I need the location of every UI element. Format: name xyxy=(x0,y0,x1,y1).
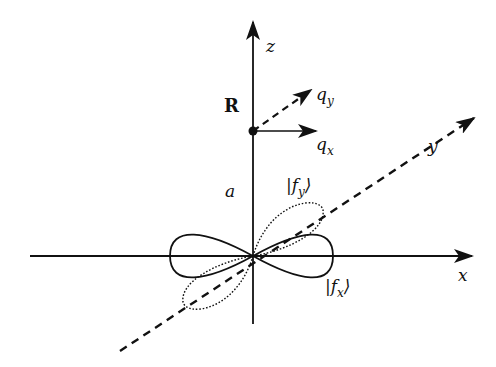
fy-label: |fy⟩ xyxy=(286,175,311,199)
fx-label: |fx⟩ xyxy=(325,276,350,300)
R-label: R xyxy=(224,95,240,116)
a-label: a xyxy=(225,181,235,201)
z-label: z xyxy=(265,36,276,56)
y-axis xyxy=(120,118,474,351)
orbital-diagram: z y x R a qy qx |fy⟩ |fx⟩ xyxy=(0,0,496,367)
y-label: y xyxy=(427,136,438,156)
qx-label: qx xyxy=(316,134,334,158)
x-label: x xyxy=(458,265,468,285)
qy-label: qy xyxy=(316,84,334,108)
qy-vector xyxy=(253,90,311,131)
